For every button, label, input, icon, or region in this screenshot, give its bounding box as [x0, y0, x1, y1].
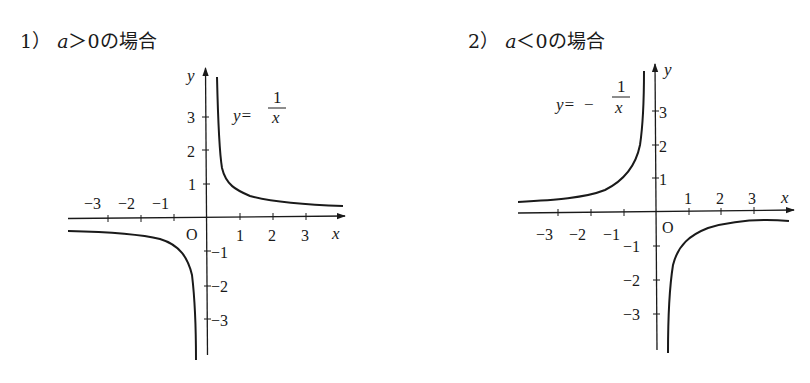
- graph-2-y-tick-label: −3: [623, 306, 640, 323]
- graph-1-y-tick-label: −3: [211, 312, 228, 329]
- graph-2-x-tick-label: 3: [748, 190, 756, 207]
- svg-text:y=: y=: [231, 106, 252, 125]
- graph-2-x-axis-label: x: [780, 188, 789, 207]
- graph-2-x-tick-label: −3: [536, 226, 553, 243]
- graph-2-equation: y= − 1 x: [554, 77, 630, 117]
- graph-1-y-axis-label: y: [185, 66, 195, 85]
- graph-1: −3 −2 −1 1 2 3 3 2 1 −1 −2 −3 O x y y= 1…: [68, 66, 345, 360]
- graph-1-y-tick-label: 1: [188, 176, 196, 193]
- svg-text:−: −: [584, 95, 594, 114]
- graph-2-curve-positive-branch: [668, 220, 789, 353]
- graph-1-x-tick-label: −3: [84, 195, 101, 212]
- graph-1-curve-negative-branch: [68, 231, 196, 360]
- svg-text:1: 1: [273, 88, 282, 107]
- graph-1-origin-label: O: [186, 226, 198, 243]
- svg-text:y=: y=: [554, 95, 575, 114]
- graph-1-x-tick-label: −2: [118, 195, 135, 212]
- svg-text:x: x: [614, 98, 623, 117]
- graph-1-x-tick-label: 1: [236, 227, 244, 244]
- graph-2-x-tick-label: −2: [569, 226, 586, 243]
- graph-1-x-tick-label: −1: [152, 195, 169, 212]
- graph-1-x-axis-label: x: [331, 224, 340, 243]
- graph-2-y-tick-label: 2: [659, 138, 667, 155]
- graph-1-x-tick-label: 2: [268, 227, 276, 244]
- graph-1-y-tick-label: 2: [187, 143, 195, 160]
- graphs-canvas: −3 −2 −1 1 2 3 3 2 1 −1 −2 −3 O x y y= 1…: [0, 0, 810, 383]
- graph-1-y-tick-label: −2: [211, 278, 228, 295]
- graph-2-y-axis-label: y: [662, 60, 672, 79]
- graph-1-x-tick-label: 3: [301, 227, 309, 244]
- graph-2-x-tick-label: 1: [684, 190, 692, 207]
- graph-2-y-tick-label: −2: [623, 272, 640, 289]
- graph-2-y-tick-label: 3: [659, 104, 667, 121]
- graph-2-y-tick-label: 1: [659, 171, 667, 188]
- graph-1-equation: y= 1 x: [231, 88, 286, 127]
- graph-1-y-tick-label: −1: [211, 244, 228, 261]
- graph-2-x-tick-label: 2: [716, 190, 724, 207]
- graph-1-y-axis: [206, 68, 208, 355]
- graph-2-x-tick-label: −1: [603, 226, 620, 243]
- graph-1-y-tick-label: 3: [187, 109, 195, 126]
- graph-2-y-tick-label: −1: [623, 238, 640, 255]
- graph-2-y-axis: [655, 64, 657, 350]
- graph-2-origin-label: O: [662, 219, 674, 236]
- svg-text:1: 1: [617, 77, 626, 96]
- svg-text:x: x: [271, 108, 280, 127]
- graph-2: −3 −2 −1 1 2 3 3 2 1 −1 −2 −3 O x y y= −…: [518, 60, 794, 353]
